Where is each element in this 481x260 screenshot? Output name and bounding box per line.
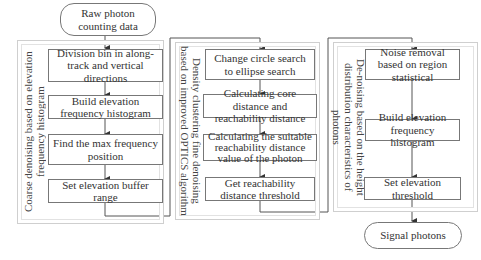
step-division-bin: Division bin in along-track and vertical… <box>48 49 163 82</box>
step-label: Set elevation buffer range <box>52 179 159 204</box>
group-height-distribution-denoising-label: De-noising based on the height distribut… <box>336 46 362 208</box>
step-label: Division bin in along-track and vertical… <box>52 47 159 85</box>
step-label: Find the max frequency position <box>52 137 159 162</box>
start-label: Raw photon counting data <box>61 7 155 32</box>
start-terminal: Raw photon counting data <box>60 3 156 36</box>
step-label: Change circle search to ellipse search <box>209 52 311 77</box>
step-suitable-reachability-value: Calculating the suitable reachability di… <box>203 134 317 161</box>
step-label: Set elevation threshold <box>368 176 457 201</box>
group-coarse-denoising-label: Coarse denoising based on elevation freq… <box>21 44 47 220</box>
step-set-buffer-range: Set elevation buffer range <box>48 179 163 203</box>
step-reachability-threshold: Get reachability distance threshold <box>205 177 315 201</box>
group-optics-fine-denoising-label: Density clustering fine denoising based … <box>178 46 204 216</box>
step-label: Get reachability distance threshold <box>209 177 311 202</box>
end-terminal: Signal photons <box>364 222 462 249</box>
step-core-reachability-distance: Calculating core distance and reachabili… <box>203 94 317 118</box>
step-label: Build elevation frequency histogram <box>52 95 159 120</box>
step-build-histogram-2: Build elevation frequency histogram <box>365 119 460 141</box>
step-set-elevation-threshold: Set elevation threshold <box>364 177 461 200</box>
step-label: Calculating core distance and reachabili… <box>207 87 313 125</box>
group-label-text: Density clustering fine denoising based … <box>179 46 203 216</box>
group-label-text: De-noising based on the height distribut… <box>331 46 367 208</box>
step-find-max-frequency: Find the max frequency position <box>48 134 163 165</box>
step-ellipse-search: Change circle search to ellipse search <box>205 49 315 80</box>
step-label: Build elevation frequency histogram <box>369 111 456 149</box>
step-build-histogram: Build elevation frequency histogram <box>48 95 163 119</box>
step-label: Calculating the suitable reachability di… <box>207 131 313 164</box>
group-label-text: Coarse denoising based on elevation freq… <box>22 44 46 220</box>
step-noise-removal-region: Noise removal based on region statistica… <box>365 49 460 80</box>
step-label: Noise removal based on region statistica… <box>369 46 456 84</box>
end-label: Signal photons <box>380 229 446 242</box>
